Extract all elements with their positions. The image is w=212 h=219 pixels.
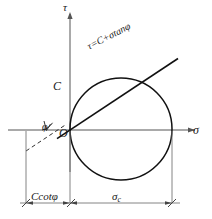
failure-envelope-line	[57, 59, 178, 139]
sigma-axis-label: σ	[193, 124, 199, 136]
origin-label: O	[59, 127, 68, 139]
sigma-c-subscript: c	[117, 195, 121, 204]
sigma-axis	[8, 127, 195, 132]
mohr-coulomb-diagram: τ σ C O φ τ=C+σtanφ Ccotφ σc	[0, 0, 212, 219]
cohesion-intercept-label: C	[53, 80, 61, 92]
ccot-dimension-label: Ccotφ	[31, 191, 58, 202]
sigma-c-dimension-label: σc	[112, 191, 121, 204]
mohr-circle	[70, 78, 172, 180]
friction-angle-label: φ	[42, 122, 48, 132]
tau-axis-label: τ	[63, 2, 67, 13]
tau-axis-arrow	[67, 12, 72, 19]
